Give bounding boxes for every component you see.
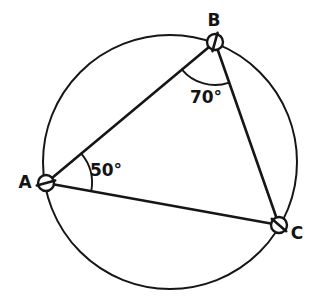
chord-ab [46,42,215,183]
angle-label-a: 50° [90,160,122,180]
chord-ac [46,183,279,225]
circumscribed-circle [43,35,297,289]
geometry-canvas: A B C 50° 70° [0,0,319,299]
vertex-label-c: C [291,223,303,243]
angle-arc-b [182,70,229,85]
chord-bc [215,42,279,225]
vertex-label-a: A [18,172,32,192]
angle-label-b: 70° [190,87,222,107]
vertex-label-b: B [208,10,221,30]
geometry-diagram: A B C 50° 70° [0,0,319,299]
